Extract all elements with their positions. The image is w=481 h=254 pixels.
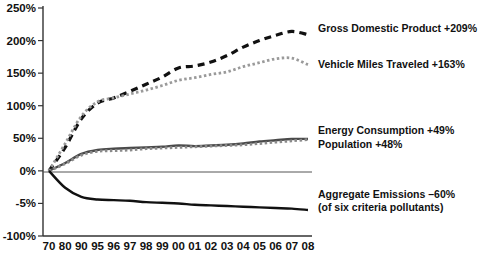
x-tick-label: 03 — [221, 240, 234, 252]
y-tick-labels: 250%200%150%100%50%0%-5%-100% — [3, 2, 36, 242]
chart-svg: 250%200%150%100%50%0%-5%-100% 7080909596… — [0, 0, 481, 254]
x-tick-label: 04 — [237, 240, 250, 252]
emissions-growth-chart: 250%200%150%100%50%0%-5%-100% 7080909596… — [0, 0, 481, 254]
y-axis: 250%200%150%100%50%0%-5%-100% — [3, 2, 43, 242]
series-label-energy-consumption: Energy Consumption +49% — [318, 124, 455, 136]
y-tick-label: 100% — [7, 100, 36, 112]
y-tick-marks — [38, 8, 43, 236]
y-tick-label: -100% — [3, 230, 36, 242]
x-tick-label: 05 — [253, 240, 266, 252]
x-tick-labels: 7080909596979899000102030405060708 — [43, 240, 315, 252]
x-tick-label: 96 — [107, 240, 120, 252]
series-labels: Gross Domestic Product +209% Vehicle Mil… — [318, 22, 478, 213]
x-tick-label: 02 — [204, 240, 217, 252]
series-line-energy-consumption — [49, 139, 308, 171]
series-line-aggregate-emissions — [49, 171, 308, 210]
y-tick-label: 250% — [7, 2, 36, 14]
series-label-vehicle-miles-traveled: Vehicle Miles Traveled +163% — [318, 58, 465, 70]
x-tick-label: 80 — [59, 240, 72, 252]
y-tick-label: -5% — [16, 197, 36, 209]
x-tick-label: 90 — [75, 240, 88, 252]
series-line-vehicle-miles-traveled — [49, 58, 308, 171]
x-tick-label: 06 — [269, 240, 282, 252]
x-tick-label: 99 — [156, 240, 169, 252]
series-curves — [49, 31, 308, 209]
x-tick-label: 00 — [172, 240, 185, 252]
x-tick-label: 98 — [140, 240, 153, 252]
series-line-gross-domestic-product — [49, 31, 308, 170]
x-tick-label: 95 — [91, 240, 104, 252]
series-label-aggregate-emissions: Aggregate Emissions –60% — [318, 188, 456, 200]
y-tick-label: 150% — [7, 67, 36, 79]
x-tick-label: 97 — [124, 240, 137, 252]
series-label-population: Population +48% — [318, 138, 403, 150]
y-tick-label: 50% — [13, 132, 36, 144]
series-label-gross-domestic-product: Gross Domestic Product +209% — [318, 22, 478, 34]
x-tick-label: 70 — [43, 240, 56, 252]
series-sublabel-aggregate-emissions: (of six criteria pollutants) — [318, 201, 443, 213]
x-axis: 7080909596979899000102030405060708 — [43, 236, 315, 252]
y-tick-label: 0% — [19, 165, 36, 177]
x-tick-label: 08 — [302, 240, 315, 252]
y-tick-label: 200% — [7, 35, 36, 47]
x-tick-label: 07 — [285, 240, 298, 252]
x-tick-label: 01 — [188, 240, 201, 252]
